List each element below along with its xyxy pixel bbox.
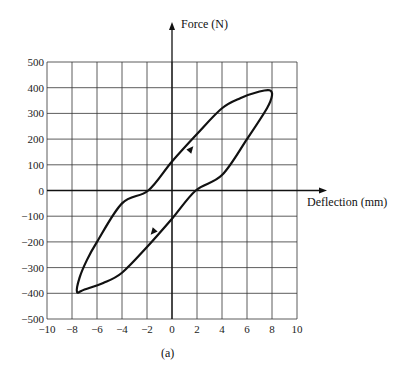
x-tick-label: 10 (292, 323, 304, 335)
y-tick-label: 300 (28, 107, 45, 119)
y-tick-label: −500 (21, 313, 44, 325)
y-tick-label: −300 (21, 262, 44, 274)
chart-axes (47, 22, 327, 319)
y-tick-label: 500 (28, 56, 45, 68)
x-tick-label: −4 (116, 323, 128, 335)
x-tick-label: 2 (194, 323, 200, 335)
y-tick-label: −100 (21, 210, 44, 222)
y-tick-label: −200 (21, 236, 44, 248)
y-tick-label: 0 (39, 185, 45, 197)
y-tick-label: 100 (28, 159, 45, 171)
x-axis-arrowhead-icon (319, 188, 327, 194)
x-tick-label: 6 (244, 323, 250, 335)
x-tick-label: −8 (66, 323, 78, 335)
y-axis-label: Force (N) (181, 17, 228, 31)
loading-arrow-icon (186, 144, 195, 153)
figure-caption: (a) (161, 346, 174, 360)
hysteresis-chart: −10−8−6−4−20246810 5004003002001000−100−… (0, 0, 404, 385)
x-tick-label: 0 (169, 323, 175, 335)
y-tick-label: −400 (21, 287, 44, 299)
y-tick-label: 200 (28, 133, 45, 145)
x-tick-label: 4 (219, 323, 225, 335)
hysteresis-loop-line (77, 90, 272, 293)
x-tick-labels: −10−8−6−4−20246810 (38, 323, 303, 335)
y-tick-label: 400 (28, 82, 45, 94)
x-tick-label: −6 (91, 323, 103, 335)
y-axis-arrowhead-icon (169, 22, 175, 30)
y-tick-labels: 5004003002001000−100−200−300−400−500 (21, 56, 44, 325)
x-tick-label: −2 (141, 323, 153, 335)
x-tick-label: 8 (269, 323, 275, 335)
x-axis-label: Deflection (mm) (307, 195, 387, 209)
